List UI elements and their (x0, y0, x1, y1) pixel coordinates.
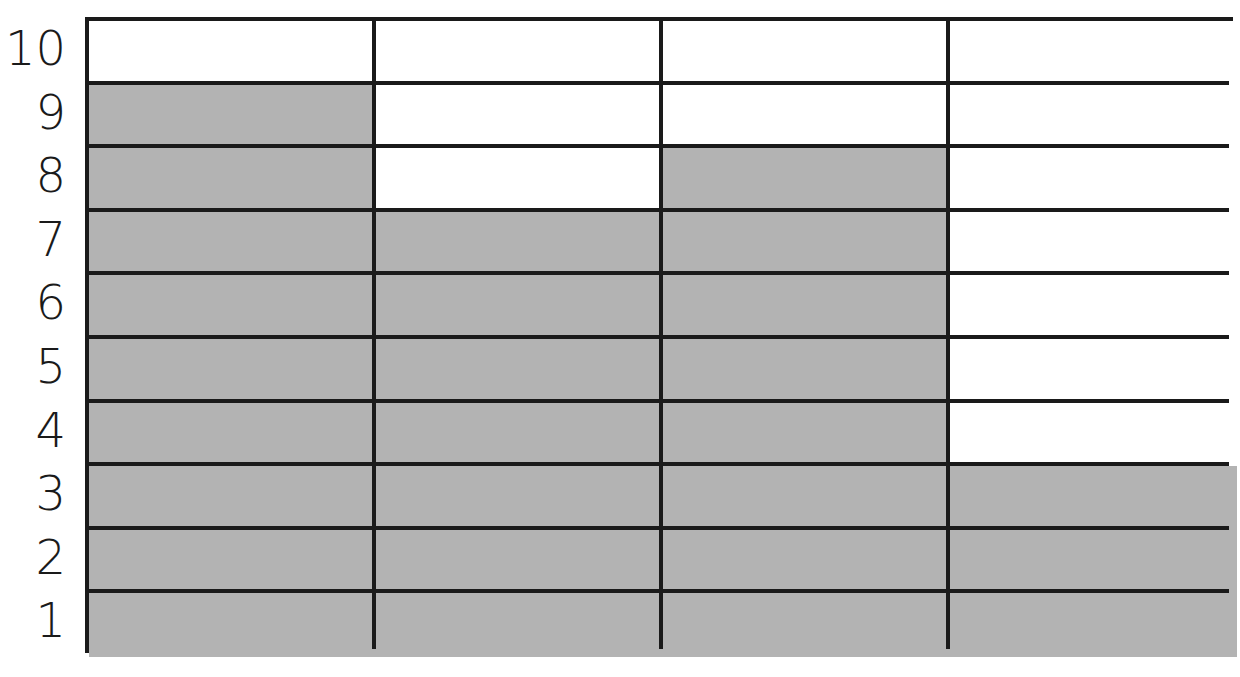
grid-cell (376, 85, 663, 149)
grid-cell (663, 466, 950, 530)
grid-cell (950, 339, 1237, 403)
y-tick-label: 4 (35, 399, 66, 463)
grid-cell (376, 466, 663, 530)
grid-cell (663, 339, 950, 403)
grid-cell (376, 403, 663, 467)
y-axis-labels: 12345678910 (0, 17, 80, 653)
grid-cell (950, 403, 1237, 467)
grid-cell (663, 212, 950, 276)
grid-cell (89, 530, 376, 594)
grid-cell (950, 21, 1237, 85)
grid-cell (376, 530, 663, 594)
y-tick-label: 8 (35, 144, 66, 208)
grid-cell (663, 21, 950, 85)
grid-cell (376, 275, 663, 339)
grid-cell (950, 530, 1237, 594)
grid-cell (89, 275, 376, 339)
y-tick-label: 3 (35, 462, 66, 526)
grid-cell (89, 403, 376, 467)
grid-cell (89, 339, 376, 403)
grid-cell (89, 212, 376, 276)
grid-cell (663, 593, 950, 657)
grid-cell (89, 466, 376, 530)
grid-cell (89, 148, 376, 212)
grid-cell (950, 593, 1237, 657)
grid-cell (376, 148, 663, 212)
grid-cell (376, 212, 663, 276)
y-tick-label: 6 (35, 271, 66, 335)
grid-cell (89, 85, 376, 149)
grid-cell (950, 212, 1237, 276)
grid-line-vertical (946, 21, 950, 649)
grid-cell (663, 85, 950, 149)
grid-cell (663, 275, 950, 339)
bar-grid (85, 17, 1233, 653)
y-tick-label: 7 (35, 208, 66, 272)
grid-cell (89, 21, 376, 85)
grid-line-vertical (372, 21, 376, 649)
grid-line-vertical (659, 21, 663, 649)
grid-cell (950, 275, 1237, 339)
grid-cell (376, 21, 663, 85)
grid-cell (376, 339, 663, 403)
grid-cell (663, 403, 950, 467)
y-tick-label: 9 (35, 81, 66, 145)
grid-cell (950, 466, 1237, 530)
y-tick-label: 5 (35, 335, 66, 399)
y-tick-label: 2 (35, 526, 66, 590)
y-tick-label: 1 (35, 589, 66, 653)
grid-cell (950, 85, 1237, 149)
grid-cell (663, 148, 950, 212)
grid-cell (376, 593, 663, 657)
grid-cell (950, 148, 1237, 212)
grid-cell (89, 593, 376, 657)
y-tick-label: 10 (5, 17, 66, 81)
grid-cell (663, 530, 950, 594)
